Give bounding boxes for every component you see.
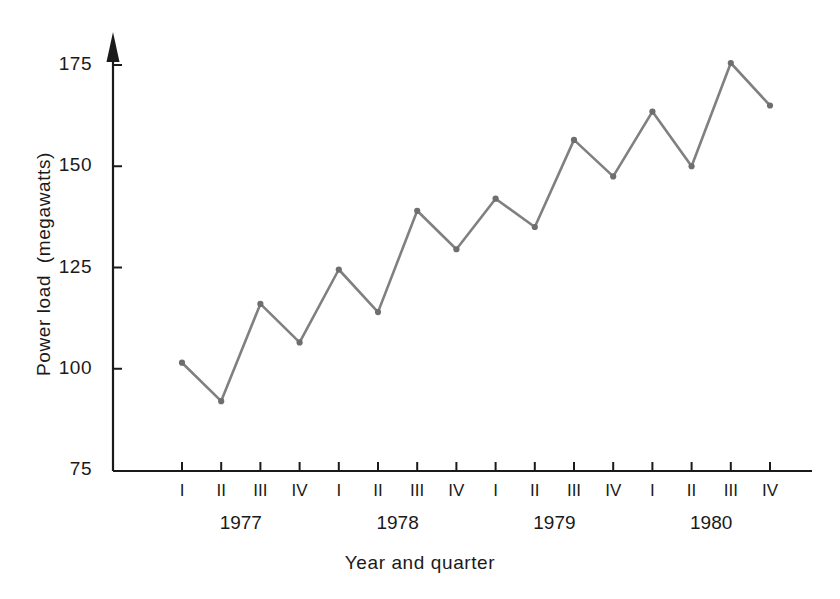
y-axis-title: Power load (megawatts) [33, 99, 55, 429]
data-point-marker [297, 339, 303, 345]
x-axis-year-label: 1979 [509, 512, 599, 534]
data-point-marker [649, 108, 655, 114]
data-point-marker [689, 163, 695, 169]
data-point-marker [414, 208, 420, 214]
x-axis-quarter-label: II [358, 481, 398, 501]
data-point-marker [728, 60, 734, 66]
x-axis-year-label: 1977 [196, 512, 286, 534]
data-point-marker [218, 398, 224, 404]
x-axis-quarter-label: II [672, 481, 712, 501]
y-axis-arrow-icon [107, 32, 120, 62]
data-point-marker [571, 137, 577, 143]
data-point-marker [375, 309, 381, 315]
x-axis-quarter-label: I [632, 481, 672, 501]
x-axis-quarter-label: IV [750, 481, 790, 501]
data-point-marker [336, 266, 342, 272]
data-point-marker [767, 102, 773, 108]
data-line [182, 63, 770, 401]
x-axis-quarter-label: I [319, 481, 359, 501]
x-axis-quarter-label: II [201, 481, 241, 501]
x-axis-quarter-label: II [515, 481, 555, 501]
x-axis-title: Year and quarter [0, 552, 840, 574]
x-axis-quarter-label: III [711, 481, 751, 501]
x-axis-quarter-label: III [397, 481, 437, 501]
x-axis-quarter-label: IV [436, 481, 476, 501]
x-axis-quarter-label: IV [593, 481, 633, 501]
power-load-time-series-chart: 17515012510075 IIIIIIIVIIIIIIIVIIIIIIIVI… [0, 0, 840, 599]
data-point-marker [453, 246, 459, 252]
y-axis-tick-label: 75 [30, 458, 92, 480]
x-axis-year-label: 1978 [353, 512, 443, 534]
data-point-marker [610, 173, 616, 179]
x-axis-quarter-label: I [162, 481, 202, 501]
y-axis-tick-label: 175 [30, 53, 92, 75]
data-point-marker [493, 196, 499, 202]
data-point-marker [179, 360, 185, 366]
data-point-marker [532, 224, 538, 230]
x-axis-year-label: 1980 [666, 512, 756, 534]
data-point-marker [257, 301, 263, 307]
chart-plot-area [0, 0, 840, 599]
x-axis-quarter-label: I [476, 481, 516, 501]
x-axis-quarter-label: III [240, 481, 280, 501]
x-axis-quarter-label: IV [280, 481, 320, 501]
x-axis-quarter-label: III [554, 481, 594, 501]
